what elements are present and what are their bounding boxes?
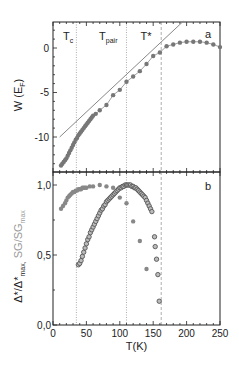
data-point-delta (154, 257, 158, 261)
x-tick-label: 0 (50, 328, 56, 339)
data-point-w (198, 40, 202, 44)
data-point-w (191, 40, 195, 44)
y-tick-label: -10 (35, 132, 50, 143)
data-point-w (204, 40, 208, 44)
data-point-w (98, 108, 102, 112)
chart: 0-5-10TcTpairT*aW (EF) 0,00,51,005010015… (0, 0, 239, 369)
data-point-w (211, 42, 215, 46)
plot-frame-a (53, 22, 220, 172)
data-point-w (104, 103, 108, 107)
panel-label-a: a (205, 28, 212, 40)
data-point-sg (91, 184, 95, 188)
data-point-w (151, 54, 155, 58)
data-point-delta (152, 235, 156, 239)
data-point-delta (82, 250, 86, 254)
panel-a: 0-5-10TcTpairT*aW (EF) (12, 21, 222, 172)
data-point-sg (124, 201, 128, 205)
data-point-w (138, 69, 142, 73)
data-point-sg (138, 239, 142, 243)
data-point-delta (80, 254, 84, 258)
y-axis-label-b: Δ*/Δ*max, SG/SGmax (12, 210, 26, 303)
annotation-c: Tc (63, 30, 74, 44)
plot-frame-b (53, 172, 220, 325)
annotation-tstar: T* (141, 30, 153, 42)
y-axis-label-a: W (EF) (12, 79, 26, 111)
y-tick-label: 0,5 (37, 250, 51, 261)
data-point-w (111, 93, 115, 97)
data-point-delta (156, 272, 160, 276)
data-point-w (158, 50, 162, 54)
fit-line (60, 21, 184, 137)
y-tick-label: -5 (40, 87, 49, 98)
data-point-w (164, 44, 168, 48)
data-point-delta (79, 258, 83, 262)
data-point-delta (153, 244, 157, 248)
data-point-w (118, 88, 122, 92)
y-tick-label: 1,0 (37, 180, 51, 191)
annotation-pair: Tpair (99, 30, 118, 45)
data-point-w (124, 80, 128, 84)
x-axis-label: T(K) (126, 340, 147, 352)
data-point-w (144, 62, 148, 66)
panel-b: 0,00,51,0050100150200250bT(K)Δ*/Δ*max, S… (12, 172, 229, 352)
data-point-w (218, 45, 222, 49)
data-line-w (61, 42, 220, 166)
data-point-delta (84, 242, 88, 246)
x-tick-label: 150 (145, 328, 162, 339)
data-point-w (178, 40, 182, 44)
x-tick-label: 50 (81, 328, 93, 339)
data-point-sg (98, 183, 102, 187)
panel-label-b: b (205, 180, 211, 192)
data-point-delta (87, 235, 91, 239)
data-point-w (94, 112, 98, 116)
x-tick-label: 200 (178, 328, 195, 339)
x-tick-label: 250 (212, 328, 229, 339)
data-point-w (184, 40, 188, 44)
y-tick-label: 0 (43, 43, 49, 54)
data-point-delta (150, 209, 154, 213)
data-point-sg (131, 219, 135, 223)
data-point-sg (144, 267, 148, 271)
data-point-delta (83, 246, 87, 250)
data-point-w (171, 42, 175, 46)
x-tick-label: 100 (111, 328, 128, 339)
data-point-w (131, 74, 135, 78)
data-point-sg (111, 186, 115, 190)
data-point-sg (118, 195, 122, 199)
data-point-sg (104, 184, 108, 188)
data-point-delta (157, 299, 161, 303)
